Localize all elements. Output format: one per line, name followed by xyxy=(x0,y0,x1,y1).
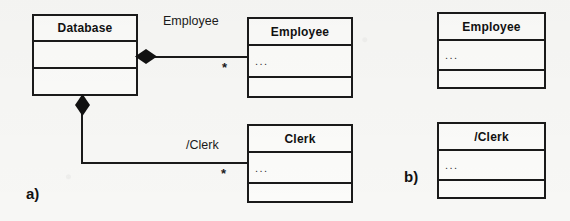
association-line-database-clerk-vertical xyxy=(81,112,83,164)
class-attributes-database xyxy=(34,42,136,69)
class-name-clerk-b: /Clerk xyxy=(439,124,544,151)
panel-label-b: b) xyxy=(404,168,418,185)
association-line-database-clerk-horizontal xyxy=(81,162,248,164)
class-box-employee-b[interactable]: Employee ... xyxy=(437,12,546,89)
class-attributes-employee-a: ... xyxy=(249,46,351,78)
class-name-database: Database xyxy=(34,16,136,42)
class-box-clerk-a[interactable]: Clerk ... xyxy=(247,124,353,203)
association-multiplicity-employee: * xyxy=(222,60,227,75)
class-box-employee-a[interactable]: Employee ... xyxy=(247,17,353,98)
class-attributes-employee-b: ... xyxy=(439,41,544,71)
class-box-database[interactable]: Database xyxy=(32,14,138,96)
association-label-employee: Employee xyxy=(163,14,219,28)
panel-label-a: a) xyxy=(26,185,39,202)
composition-diamond-database-clerk xyxy=(75,94,90,116)
class-operations-employee-a xyxy=(249,78,351,96)
class-name-employee-b: Employee xyxy=(439,14,544,41)
class-operations-database xyxy=(34,69,136,94)
class-name-clerk-a: Clerk xyxy=(249,126,351,153)
uml-diagram-canvas: Database Employee ... Clerk ... Employee… xyxy=(0,0,570,221)
class-attributes-clerk-a: ... xyxy=(249,153,351,184)
association-line-database-employee xyxy=(150,56,248,58)
class-name-employee-a: Employee xyxy=(249,19,351,46)
class-box-clerk-b[interactable]: /Clerk ... xyxy=(437,122,546,199)
composition-diamond-database-employee xyxy=(135,49,157,64)
class-operations-clerk-b xyxy=(439,181,544,197)
association-multiplicity-clerk: * xyxy=(221,166,226,181)
class-operations-clerk-a xyxy=(249,184,351,201)
class-operations-employee-b xyxy=(439,71,544,87)
class-attributes-clerk-b: ... xyxy=(439,151,544,181)
association-label-clerk: /Clerk xyxy=(186,138,219,152)
